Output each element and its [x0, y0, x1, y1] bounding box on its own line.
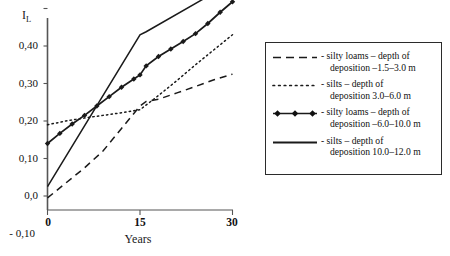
chart-legend: - silty loams – depth of deposition –1.5… — [265, 42, 442, 175]
y-tick-label-neg0_10: - 0,10 — [0, 228, 35, 239]
legend-line-2: deposition –1.5–3.0 m — [321, 62, 416, 74]
legend-line-2: deposition 10.0–12.0 m — [321, 146, 421, 158]
x-tick-label-30: 30 — [217, 217, 247, 229]
legend-line-2: deposition –6.0–10.0 m — [321, 118, 421, 130]
x-tick-label-15: 15 — [125, 217, 155, 229]
legend-line-1: - silty loams – depth of — [321, 50, 410, 61]
plot-area: IL 0,40 0,30 0,20 0,10 0,0 - 0,10 0 15 3… — [0, 0, 252, 256]
chart-figure: IL 0,40 0,30 0,20 0,10 0,0 - 0,10 0 15 3… — [0, 0, 450, 256]
legend-line-1: - silts – depth of — [321, 78, 383, 89]
y-tick-label-0_0: 0,0 — [2, 190, 38, 201]
y-tick-label-0_40: 0,40 — [2, 40, 38, 51]
legend-line-1: - silts – depth of — [321, 135, 383, 146]
x-axis-ticks — [48, 210, 233, 215]
x-axis-title: Years — [108, 232, 168, 247]
legend-line-1: - silty loams – depth of — [321, 106, 410, 117]
y-axis-title-subscript: L — [26, 14, 31, 24]
legend-label-silty-loams-1_5-3_0: - silty loams – depth of deposition –1.5… — [321, 50, 416, 73]
x-tick-label-0: 0 — [33, 217, 63, 229]
y-tick-label-0_20: 0,20 — [2, 115, 38, 126]
series-silty-loams-1_5-3_0 — [48, 74, 233, 198]
y-tick-label-0_10: 0,10 — [2, 153, 38, 164]
legend-item-silty-loams-6_0-10_0: - silty loams – depth of deposition –6.0… — [272, 106, 435, 129]
dashed-line-sample-icon — [272, 51, 318, 64]
series-silts-10_0-12_0 — [48, 0, 233, 187]
legend-line-2: deposition 3.0–6.0 m — [321, 90, 411, 102]
series-silts-3_0-6_0 — [48, 35, 233, 125]
data-series-group — [45, 0, 235, 198]
y-axis-title: IL — [22, 8, 31, 24]
marker-line-sample-icon — [272, 107, 318, 120]
series-silty-loams-6_0-10_0-markers — [45, 0, 235, 146]
legend-label-silty-loams-6_0-10_0: - silty loams – depth of deposition –6.0… — [321, 106, 421, 129]
legend-item-silts-3_0-6_0: - silts – depth of deposition 3.0–6.0 m — [272, 78, 435, 101]
legend-label-silts-10_0-12_0: - silts – depth of deposition 10.0–12.0 … — [321, 135, 421, 158]
y-tick-label-0_30: 0,30 — [2, 78, 38, 89]
dotted-line-sample-icon — [272, 79, 318, 92]
legend-item-silts-10_0-12_0: - silts – depth of deposition 10.0–12.0 … — [272, 135, 435, 158]
legend-label-silts-3_0-6_0: - silts – depth of deposition 3.0–6.0 m — [321, 78, 411, 101]
solid-line-sample-icon — [272, 136, 318, 149]
legend-item-silty-loams-1_5-3_0: - silty loams – depth of deposition –1.5… — [272, 50, 435, 73]
